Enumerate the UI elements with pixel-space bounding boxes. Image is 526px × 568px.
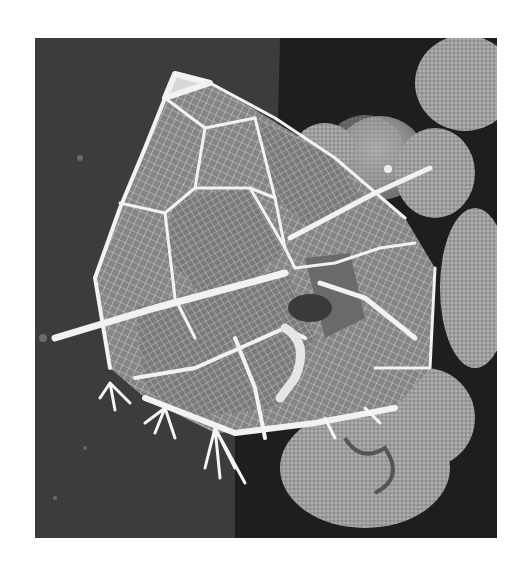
micrograph-frame: [35, 38, 497, 538]
sem-micrograph: [35, 38, 497, 538]
